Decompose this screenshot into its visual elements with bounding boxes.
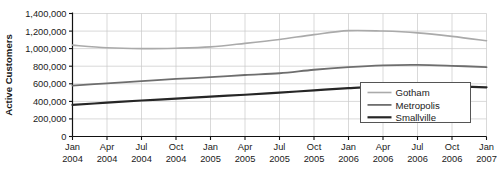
x-axis-tick-label-year: 2006 [338, 154, 359, 164]
y-axis-tick-label: 1,000,000 [25, 44, 66, 54]
x-axis-tick-label-month: Apr [376, 142, 390, 152]
legend-label-smallville[interactable]: Smallville [396, 112, 437, 123]
x-axis-tick-label-month: Apr [238, 142, 252, 152]
x-axis-tick-label-month: Oct [169, 142, 184, 152]
y-axis-title: Active Customers [3, 34, 14, 116]
x-axis-tick-label-year: 2005 [304, 154, 325, 164]
x-axis-tick-label-year: 2004 [166, 154, 187, 164]
x-axis-tick-label-month: Jan [341, 142, 356, 152]
x-axis-tick-label-month: Jan [65, 142, 80, 152]
x-axis-tick-label-year: 2006 [373, 154, 394, 164]
y-axis-tick-label: 1,200,000 [25, 27, 66, 37]
x-axis-tick-label-year: 2004 [97, 154, 118, 164]
y-axis-tick-label: 200,000 [33, 114, 67, 124]
x-axis-tick-label-month: Oct [307, 142, 322, 152]
y-axis-tick-label: 400,000 [33, 97, 67, 107]
x-axis-tick-label-month: Jan [479, 142, 494, 152]
y-axis-tick-label: 600,000 [33, 79, 67, 89]
y-axis-tick-label: 800,000 [33, 62, 67, 72]
y-axis-tick-label: 0 [61, 132, 66, 142]
x-axis-tick-label-year: 2005 [200, 154, 221, 164]
x-axis-tick-label-year: 2005 [269, 154, 290, 164]
x-axis-tick-label-month: Jul [412, 142, 424, 152]
x-axis-tick-label-year: 2005 [235, 154, 256, 164]
y-axis-tick-labels: 0200,000400,000600,000800,0001,000,0001,… [25, 9, 66, 142]
x-axis-tick-labels: Jan2004Apr2004Jul2004Oct2004Jan2005Apr20… [62, 142, 497, 164]
x-axis-tick-label-month: Oct [445, 142, 460, 152]
y-axis-tick-label: 1,400,000 [25, 9, 66, 19]
x-axis-tick-label-year: 2007 [476, 154, 497, 164]
line-chart: 0200,000400,000600,000800,0001,000,0001,… [0, 0, 497, 176]
figure-container: 0200,000400,000600,000800,0001,000,0001,… [0, 0, 497, 176]
x-axis-tick-label-month: Jul [136, 142, 148, 152]
x-axis-tick-label-year: 2004 [62, 154, 83, 164]
legend-label-gotham[interactable]: Gotham [396, 87, 430, 98]
x-axis-tick-label-year: 2006 [442, 154, 463, 164]
x-axis-tick-label-year: 2006 [407, 154, 428, 164]
y-axis-label-text: Active Customers [3, 34, 14, 116]
x-axis-tick-label-year: 2004 [131, 154, 152, 164]
x-axis-tick-label-month: Jan [203, 142, 218, 152]
legend-label-metropolis[interactable]: Metropolis [396, 100, 440, 111]
x-axis-tick-label-month: Jul [274, 142, 286, 152]
x-axis-tick-label-month: Apr [100, 142, 114, 152]
chart-legend[interactable]: GothamMetropolisSmallville [361, 83, 471, 123]
